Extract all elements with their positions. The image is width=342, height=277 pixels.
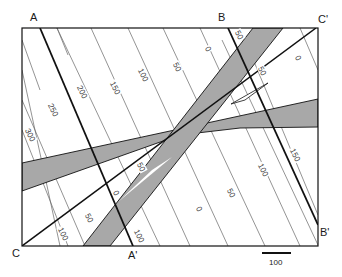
dike-band-diagonal — [83, 28, 283, 246]
section-label-a-prime: A' — [128, 250, 137, 261]
section-label-a: A — [30, 12, 37, 23]
geologic-map: 3002502001501005005050015010050050050100… — [0, 0, 342, 277]
section-label-c: C — [12, 248, 20, 259]
contour-label: 50 — [171, 61, 183, 74]
map-content — [22, 28, 318, 246]
contour-label: 50 — [83, 212, 95, 225]
section-label-c-prime: C' — [318, 14, 328, 25]
section-label-b: B — [218, 12, 225, 23]
contour-label: 50 — [225, 187, 237, 200]
contour-line — [300, 28, 318, 70]
contour-label: 50 — [256, 65, 268, 78]
scale-bar-label: 100 — [269, 258, 282, 267]
section-label-b-prime: B' — [320, 227, 329, 238]
section-line-c — [22, 28, 316, 246]
